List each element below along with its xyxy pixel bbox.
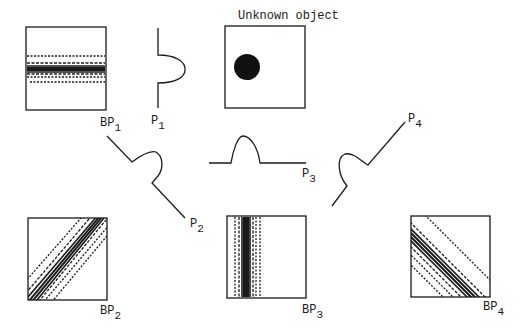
label-bp3: BP3 [302, 304, 323, 321]
back-projection-4 [404, 210, 500, 306]
back-projection-3 [227, 216, 306, 298]
label-bp1: BP1 [100, 117, 121, 134]
projection-profile-2 [107, 136, 185, 218]
unknown-object-title: Unknown object [238, 10, 339, 22]
projection-profile-3 [209, 136, 306, 163]
unknown-object-frame [225, 26, 305, 108]
label-p3: P3 [302, 168, 316, 185]
back-projection-1 [26, 27, 106, 110]
label-p1: P1 [151, 115, 165, 132]
object-disc [234, 54, 260, 80]
projection-profile-4 [332, 122, 405, 206]
label-bp2: BP2 [100, 305, 121, 322]
label-p4: P4 [408, 113, 422, 130]
projection-profile-1 [158, 28, 185, 108]
label-bp4: BP4 [483, 301, 504, 318]
diagram-canvas [0, 0, 527, 333]
back-projection-2 [18, 210, 112, 312]
label-p2: P2 [190, 218, 204, 235]
